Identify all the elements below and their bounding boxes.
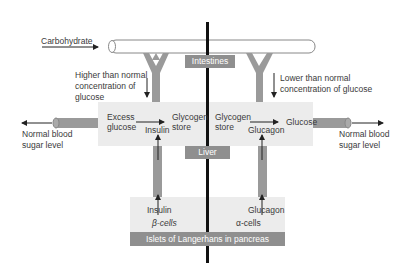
glucose-label: Glucose	[286, 117, 317, 127]
right-outcome-line2: sugar level	[339, 140, 380, 150]
left-condition-line2: concentration of	[75, 81, 135, 91]
insulin-pancreas-label: Insulin	[147, 205, 172, 215]
glycogen-store-right-line2: store	[215, 122, 234, 132]
glycogen-store-left-line2: store	[172, 122, 191, 132]
left-outcome-line2: sugar level	[22, 140, 63, 150]
liver-label: Liver	[185, 146, 230, 159]
left-condition-line1: Higher than normal	[75, 70, 147, 80]
right-outcome-line1: Normal blood	[339, 129, 390, 139]
excess-glucose-line2: glucose	[107, 122, 136, 132]
beta-cells-label: β-cells	[152, 218, 177, 228]
glucagon-liver-label: Glucagon	[248, 125, 284, 135]
intestines-label: Intestines	[185, 55, 235, 68]
alpha-cells-label: α-cells	[236, 218, 261, 228]
carbohydrate-label: Carbohydrate	[41, 36, 93, 46]
excess-glucose-line1: Excess	[107, 112, 134, 122]
pancreas-label: Islets of Langerhans in pancreas	[130, 232, 285, 246]
left-outcome-line1: Normal blood	[22, 129, 73, 139]
glycogen-store-left-line1: Glycogen	[172, 112, 208, 122]
right-condition-line1: Lower than normal	[280, 73, 350, 83]
right-condition-line2: concentration of glucose	[280, 84, 372, 94]
glucagon-pancreas-label: Glucagon	[248, 205, 284, 215]
left-condition-line3: glucose	[75, 92, 104, 102]
glycogen-store-right-line1: Glycogen	[215, 112, 251, 122]
insulin-liver-label: Insulin	[145, 125, 170, 135]
